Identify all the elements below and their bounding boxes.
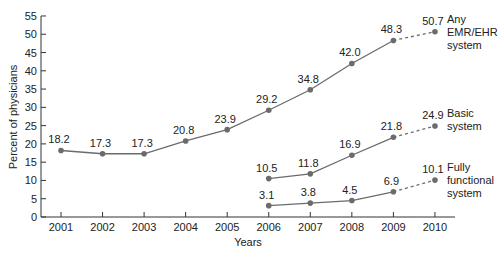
data-label: 10.5 xyxy=(256,162,277,174)
y-tick-label: 40 xyxy=(25,65,37,77)
series-name-label: Basicsystem xyxy=(447,107,482,132)
data-label: 50.7 xyxy=(422,15,443,27)
data-point xyxy=(349,198,355,204)
data-label: 29.2 xyxy=(256,93,277,105)
data-point xyxy=(349,61,355,67)
series-name-label: Fullyfunctionalsystem xyxy=(447,161,494,199)
y-tick-label: 20 xyxy=(25,138,37,150)
projected-segment xyxy=(393,180,435,192)
data-label: 17.3 xyxy=(90,137,111,149)
x-tick-label: 2007 xyxy=(298,221,322,233)
y-tick-label: 5 xyxy=(31,193,37,205)
data-point xyxy=(141,151,147,157)
x-tick-label: 2009 xyxy=(381,221,405,233)
data-label: 21.8 xyxy=(381,120,402,132)
data-label: 6.9 xyxy=(384,175,399,187)
data-label: 18.2 xyxy=(48,133,69,145)
data-label: 16.9 xyxy=(339,138,360,150)
data-point xyxy=(391,38,397,44)
data-label: 10.1 xyxy=(422,163,443,175)
y-tick-label: 25 xyxy=(25,120,37,132)
y-tick-label: 15 xyxy=(25,156,37,168)
x-tick-label: 2002 xyxy=(90,221,114,233)
data-label: 3.8 xyxy=(301,186,316,198)
data-point xyxy=(308,200,314,206)
data-label: 17.3 xyxy=(131,137,152,149)
data-point xyxy=(266,176,272,182)
x-tick-label: 2003 xyxy=(132,221,156,233)
data-point xyxy=(266,203,272,209)
x-tick-label: 2001 xyxy=(49,221,73,233)
data-label: 4.5 xyxy=(342,184,357,196)
data-label: 11.8 xyxy=(298,157,319,169)
series-line xyxy=(269,192,394,206)
data-point xyxy=(432,177,438,183)
data-point xyxy=(391,189,397,195)
data-point xyxy=(432,123,438,129)
x-tick-label: 2008 xyxy=(340,221,364,233)
data-label: 3.1 xyxy=(259,189,274,201)
data-label: 34.8 xyxy=(298,73,319,85)
data-point xyxy=(224,127,230,133)
data-point xyxy=(308,171,314,177)
data-label: 23.9 xyxy=(214,113,235,125)
x-tick-label: 2005 xyxy=(215,221,239,233)
series-any-emr: 18.217.317.320.823.929.234.842.048.350.7… xyxy=(48,13,497,157)
y-tick-label: 10 xyxy=(25,174,37,186)
series-fully-functional: 3.13.84.56.910.1Fullyfunctionalsystem xyxy=(259,161,494,208)
y-tick-label: 30 xyxy=(25,101,37,113)
x-tick-label: 2010 xyxy=(423,221,447,233)
data-point xyxy=(349,152,355,158)
y-tick-label: 35 xyxy=(25,83,37,95)
data-point xyxy=(183,138,189,144)
data-label: 24.9 xyxy=(422,109,443,121)
series-line xyxy=(269,137,394,178)
y-tick-label: 45 xyxy=(25,47,37,59)
line-chart: 0510152025303540455055200120022003200420… xyxy=(0,0,501,255)
x-tick-label: 2004 xyxy=(173,221,197,233)
y-tick-label: 50 xyxy=(25,28,37,40)
y-tick-label: 0 xyxy=(31,211,37,223)
data-label: 48.3 xyxy=(381,23,402,35)
data-point xyxy=(308,87,314,93)
chart-series: 18.217.317.320.823.929.234.842.048.350.7… xyxy=(48,13,497,209)
data-point xyxy=(432,29,438,35)
x-axis-label: Years xyxy=(234,236,262,248)
data-point xyxy=(58,148,64,154)
data-point xyxy=(100,151,106,157)
y-tick-label: 55 xyxy=(25,10,37,22)
data-point xyxy=(391,135,397,141)
data-point xyxy=(266,107,272,113)
data-label: 20.8 xyxy=(173,124,194,136)
x-tick-label: 2006 xyxy=(257,221,281,233)
series-name-label: AnyEMR/EHRsystem xyxy=(447,13,498,51)
data-label: 42.0 xyxy=(339,46,360,58)
y-axis-label: Percent of physicians xyxy=(7,64,19,169)
